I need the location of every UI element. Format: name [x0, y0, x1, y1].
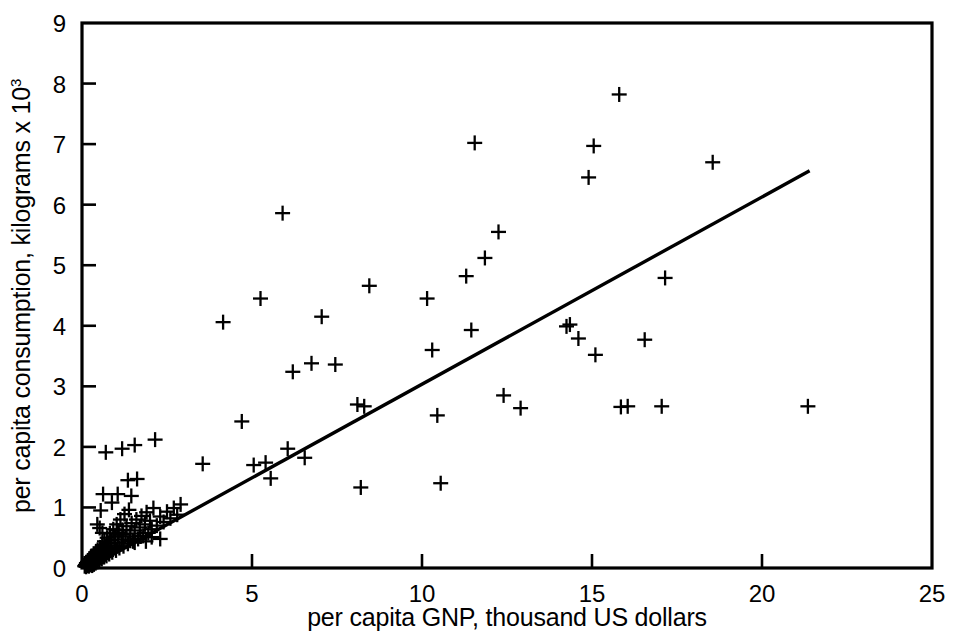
y-tick-label-4: 4: [53, 313, 66, 340]
data-point: [350, 397, 365, 412]
data-point: [263, 471, 278, 486]
data-point: [581, 170, 596, 185]
y-axis-title-text: per capita consumption, kilograms x 10: [7, 87, 35, 513]
data-point: [420, 291, 435, 306]
data-point: [195, 456, 210, 471]
data-point: [234, 414, 249, 429]
data-point: [637, 332, 652, 347]
x-axis-title: per capita GNP, thousand US dollars: [307, 603, 707, 631]
data-point: [705, 155, 720, 170]
y-axis-ticks: [82, 84, 96, 508]
data-point-markers: [77, 87, 815, 574]
data-point: [464, 323, 479, 338]
scatter-plot-figure: 0123456789 0510152025 per capita GNP, th…: [0, 0, 957, 640]
data-point: [124, 488, 139, 503]
data-point: [304, 356, 319, 371]
data-point: [127, 438, 142, 453]
data-point: [173, 497, 188, 512]
data-point: [120, 473, 135, 488]
x-tick-label-20: 20: [749, 580, 776, 607]
x-tick-label-25: 25: [919, 580, 946, 607]
y-axis-title: per capita consumption, kilograms x 103: [7, 79, 35, 513]
data-point: [115, 441, 130, 456]
data-point: [166, 501, 181, 516]
data-point: [285, 364, 300, 379]
y-tick-label-2: 2: [53, 434, 66, 461]
data-point: [559, 319, 574, 334]
data-point: [477, 250, 492, 265]
y-tick-label-7: 7: [53, 131, 66, 158]
data-point: [571, 331, 586, 346]
data-point: [612, 87, 627, 102]
y-tick-label-0: 0: [53, 555, 66, 582]
y-axis-tick-labels: 0123456789: [53, 10, 66, 582]
data-point: [425, 343, 440, 358]
data-point: [98, 445, 113, 460]
data-point: [496, 388, 511, 403]
data-point: [148, 432, 163, 447]
data-point: [513, 401, 528, 416]
data-point: [459, 269, 474, 284]
y-tick-label-8: 8: [53, 71, 66, 98]
data-point: [246, 458, 261, 473]
data-point: [800, 399, 815, 414]
data-point: [93, 503, 108, 518]
plot-frame: [82, 23, 932, 568]
data-point: [353, 480, 368, 495]
y-tick-label-5: 5: [53, 252, 66, 279]
y-tick-label-3: 3: [53, 373, 66, 400]
data-point: [430, 408, 445, 423]
data-point: [96, 487, 111, 502]
x-axis-ticks: [252, 554, 762, 568]
plot-canvas: 0123456789 0510152025 per capita GNP, th…: [0, 0, 957, 640]
y-tick-label-6: 6: [53, 192, 66, 219]
data-point: [654, 399, 669, 414]
y-tick-label-1: 1: [53, 494, 66, 521]
data-point: [328, 357, 343, 372]
regression-line: [91, 171, 810, 567]
data-point: [216, 315, 231, 330]
x-tick-label-5: 5: [245, 580, 258, 607]
data-point: [467, 135, 482, 150]
data-point: [491, 224, 506, 239]
data-point: [433, 476, 448, 491]
data-point: [362, 278, 377, 293]
data-point: [586, 138, 601, 153]
data-point: [562, 317, 577, 332]
y-tick-label-9: 9: [53, 10, 66, 37]
data-point: [314, 309, 329, 324]
y-axis-title-superscript: 3: [7, 79, 24, 87]
x-tick-label-0: 0: [75, 580, 88, 607]
data-point: [658, 270, 673, 285]
data-point: [620, 399, 635, 414]
data-point: [275, 206, 290, 221]
data-point: [130, 471, 145, 486]
data-point: [253, 291, 268, 306]
data-point: [588, 347, 603, 362]
